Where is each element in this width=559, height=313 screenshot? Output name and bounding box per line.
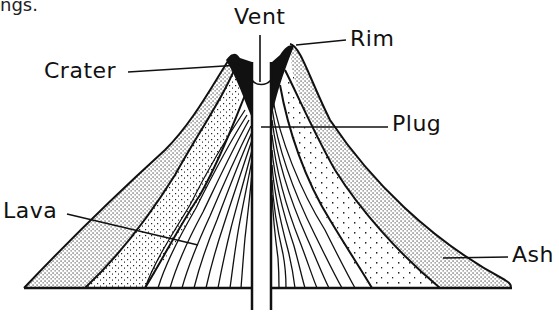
label-rim: Rim xyxy=(350,28,394,50)
label-lava: Lava xyxy=(3,200,57,222)
label-vent: Vent xyxy=(234,6,285,28)
label-ash: Ash xyxy=(512,244,554,266)
rim-leader-line xyxy=(296,40,346,45)
label-crater: Crater xyxy=(44,60,116,82)
label-plug: Plug xyxy=(392,113,441,135)
volcano-diagram: ngs. Vent Rim Crater Plug Lava Ash xyxy=(0,0,559,313)
cropped-caption-fragment: ngs. xyxy=(0,0,38,15)
ash-leader-line xyxy=(443,257,508,258)
volcano-cross-section-illustration xyxy=(0,0,559,313)
